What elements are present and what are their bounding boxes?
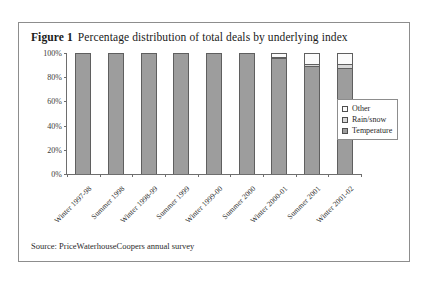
bar-segment-other — [271, 53, 287, 57]
x-axis-label: Winter 1997-98 — [53, 184, 94, 225]
bar-segment-other — [304, 53, 320, 64]
bar-segment-rainsnow — [271, 57, 287, 58]
bar-3 — [141, 53, 157, 174]
y-axis-label: 0% — [51, 170, 62, 179]
y-axis-tick — [64, 126, 67, 127]
figure-title-text: Percentage distribution of total deals b… — [78, 31, 348, 43]
legend-label: Rain/snow — [352, 115, 386, 124]
bar-segment-rainsnow — [304, 64, 320, 66]
legend-swatch-temperature-icon — [342, 128, 348, 134]
x-axis-tick — [100, 174, 101, 177]
figure-frame: Figure 1Percentage distribution of total… — [18, 22, 410, 262]
x-axis-tick — [263, 174, 264, 177]
bar-2 — [108, 53, 124, 174]
bar-1 — [75, 53, 91, 174]
legend-item-rainsnow: Rain/snow — [342, 114, 392, 125]
y-axis-tick — [64, 101, 67, 102]
bar-segment-temperature — [239, 53, 255, 174]
y-axis-label: 20% — [47, 145, 62, 154]
bar-segment-temperature — [304, 66, 320, 174]
y-axis-tick — [64, 77, 67, 78]
bar-7 — [271, 53, 287, 174]
bar-4 — [173, 53, 189, 174]
x-axis-tick — [230, 174, 231, 177]
figure-title: Figure 1Percentage distribution of total… — [31, 31, 348, 43]
y-axis-label: 60% — [47, 97, 62, 106]
plot-area: 0%20%40%60%80%100%Winter 1997-98Summer 1… — [66, 53, 361, 175]
y-axis-tick — [64, 150, 67, 151]
y-axis-label: 40% — [47, 121, 62, 130]
x-axis-tick — [296, 174, 297, 177]
legend-swatch-rainsnow-icon — [342, 117, 348, 123]
bar-segment-other — [337, 53, 353, 64]
bar-segment-temperature — [206, 53, 222, 174]
x-axis-tick — [165, 174, 166, 177]
bar-segment-temperature — [108, 53, 124, 174]
bar-segment-temperature — [173, 53, 189, 174]
bar-segment-temperature — [75, 53, 91, 174]
bar-6 — [239, 53, 255, 174]
y-axis-tick — [64, 53, 67, 54]
y-axis-label: 80% — [47, 73, 62, 82]
bar-segment-rainsnow — [337, 64, 353, 68]
x-axis-tick — [361, 174, 362, 177]
figure-label: Figure 1 — [31, 31, 73, 43]
source-note: Source: PriceWaterhouseCoopers annual su… — [31, 241, 194, 251]
x-axis-tick — [328, 174, 329, 177]
x-axis-tick — [67, 174, 68, 177]
bar-5 — [206, 53, 222, 174]
legend-label: Other — [352, 104, 370, 113]
legend-label: Temperature — [352, 126, 392, 135]
bar-segment-temperature — [271, 58, 287, 174]
chart-area: 0%20%40%60%80%100%Winter 1997-98Summer 1… — [19, 49, 411, 239]
bar-segment-temperature — [141, 53, 157, 174]
bar-8 — [304, 53, 320, 174]
legend-swatch-other-icon — [342, 106, 348, 112]
x-axis-tick — [198, 174, 199, 177]
y-axis-label: 100% — [43, 49, 62, 58]
legend-item-other: Other — [342, 103, 392, 114]
x-axis-tick — [132, 174, 133, 177]
chart-legend: OtherRain/snowTemperature — [337, 99, 398, 140]
legend-item-temperature: Temperature — [342, 125, 392, 136]
